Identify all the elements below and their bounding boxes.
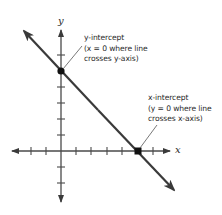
x-intercept-definition: (y = 0 where line: [148, 104, 212, 115]
x-axis: [12, 147, 170, 155]
y-intercept-leader-line: [63, 46, 82, 69]
y-intercept-title: y-intercept: [84, 33, 148, 44]
y-intercept-definition-cont: crosses y-axis): [84, 54, 148, 65]
y-axis-label: y: [58, 15, 64, 26]
x-axis-label: x: [175, 144, 181, 155]
y-axis: [57, 30, 65, 202]
y-intercept-definition: (x = 0 where line: [84, 44, 148, 55]
x-intercept-annotation: x-intercept (y = 0 where line crosses x-…: [148, 93, 212, 125]
x-intercept-title: x-intercept: [148, 93, 212, 104]
y-intercept-annotation: y-intercept (x = 0 where line crosses y-…: [84, 33, 148, 65]
x-intercept-point: [135, 148, 142, 155]
x-intercept-leader-line: [140, 125, 157, 148]
x-intercept-definition-cont: crosses x-axis): [148, 114, 212, 125]
